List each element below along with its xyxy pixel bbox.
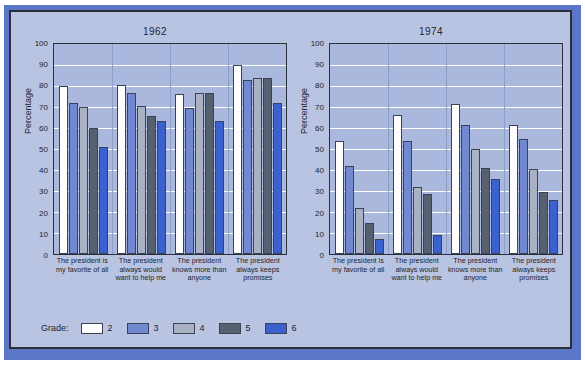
bar (491, 179, 500, 254)
bar (175, 94, 184, 254)
y-tick-label: 80 (315, 81, 324, 90)
category-labels: The president is my favorite of allThe p… (53, 257, 287, 309)
legend-swatch (219, 323, 241, 334)
legend-label: 4 (200, 323, 205, 333)
bar (205, 93, 214, 254)
legend-title: Grade: (41, 323, 69, 333)
plot-area (329, 43, 563, 255)
y-tick-label: 100 (311, 39, 324, 48)
bar (433, 235, 442, 254)
legend-swatch (265, 323, 287, 334)
category-label: The president is my favorite of all (329, 257, 388, 309)
bar (147, 116, 156, 254)
category-labels: The president is my favorite of allThe p… (329, 257, 563, 309)
bar (529, 169, 538, 254)
bar (59, 86, 68, 254)
bar (253, 78, 262, 254)
bar-groups (54, 44, 286, 254)
bar (509, 125, 518, 254)
y-tick-label: 10 (315, 229, 324, 238)
legend-label: 2 (108, 323, 113, 333)
y-tick-label: 90 (315, 60, 324, 69)
figure-paper: 1962Percentage0102030405060708090100The … (9, 10, 572, 349)
legend-item-4: 4 (173, 323, 205, 334)
bar (79, 107, 88, 254)
bar-group (170, 44, 228, 254)
y-tick-label: 40 (39, 166, 48, 175)
legend-label: 3 (154, 323, 159, 333)
y-tick-label: 50 (315, 145, 324, 154)
chart-panel-1974: 1974Percentage0102030405060708090100The … (295, 26, 567, 312)
bar (355, 208, 364, 254)
bar (423, 194, 432, 254)
bar (185, 108, 194, 254)
bar (403, 141, 412, 254)
y-tick-label: 60 (39, 123, 48, 132)
legend-item-5: 5 (219, 323, 251, 334)
legend-items: 23456 (81, 323, 311, 334)
plot-area (53, 43, 287, 255)
legend-swatch (81, 323, 103, 334)
bar (215, 121, 224, 254)
bar-group (228, 44, 286, 254)
y-tick-label: 20 (315, 208, 324, 217)
legend-swatch (127, 323, 149, 334)
chart-panel-1962: 1962Percentage0102030405060708090100The … (19, 26, 291, 312)
category-label: The president always keeps promises (505, 257, 564, 309)
chart-title: 1962 (19, 26, 291, 37)
bar-group (504, 44, 562, 254)
y-axis-ticks: 0102030405060708090100 (19, 43, 51, 255)
bar (243, 80, 252, 254)
y-tick-label: 0 (320, 251, 324, 260)
category-label: The president knows more than anyone (170, 257, 229, 309)
bar (451, 104, 460, 254)
bar (99, 147, 108, 254)
bar (365, 223, 374, 255)
bar (127, 93, 136, 254)
legend-item-2: 2 (81, 323, 113, 334)
y-tick-label: 30 (39, 187, 48, 196)
bar (549, 200, 558, 254)
bar-groups (330, 44, 562, 254)
bar (471, 149, 480, 254)
legend-label: 6 (292, 323, 297, 333)
category-label: The president is my favorite of all (53, 257, 112, 309)
bar (413, 187, 422, 254)
bar (263, 78, 272, 254)
bar (375, 239, 384, 254)
y-tick-label: 40 (315, 166, 324, 175)
y-tick-label: 80 (39, 81, 48, 90)
y-tick-label: 20 (39, 208, 48, 217)
bar (137, 106, 146, 254)
figure-root: 1962Percentage0102030405060708090100The … (0, 0, 585, 365)
y-tick-label: 10 (39, 229, 48, 238)
legend-swatch (173, 323, 195, 334)
category-label: The president always would want to help … (112, 257, 171, 309)
y-axis-ticks: 0102030405060708090100 (295, 43, 327, 255)
legend-item-3: 3 (127, 323, 159, 334)
chart-legend: Grade: 23456 (41, 319, 311, 337)
category-label: The president always keeps promises (229, 257, 288, 309)
bar-group (54, 44, 112, 254)
bar (393, 115, 402, 254)
legend-label: 5 (246, 323, 251, 333)
y-tick-label: 70 (315, 102, 324, 111)
y-tick-label: 60 (315, 123, 324, 132)
bar (195, 93, 204, 254)
bar-group (388, 44, 446, 254)
category-label: The president knows more than anyone (446, 257, 505, 309)
bar (539, 192, 548, 254)
bar (519, 139, 528, 255)
bar (89, 128, 98, 254)
y-tick-label: 30 (315, 187, 324, 196)
bar (461, 125, 470, 254)
bar (345, 166, 354, 254)
category-label: The president always would want to help … (388, 257, 447, 309)
bar (335, 141, 344, 254)
bar (233, 65, 242, 254)
bar-group (112, 44, 170, 254)
y-tick-label: 90 (39, 60, 48, 69)
bar (481, 168, 490, 254)
bar (273, 103, 282, 254)
chart-title: 1974 (295, 26, 567, 37)
